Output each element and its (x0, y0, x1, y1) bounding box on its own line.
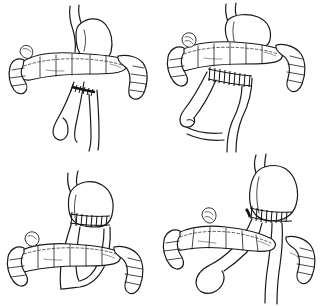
jejunal-limb-lower (186, 127, 224, 140)
descending-colon (114, 246, 143, 293)
panel-top-right-drawing (160, 0, 320, 153)
panel-bottom-left-drawing (0, 153, 160, 306)
descending-colon (276, 44, 305, 91)
cecum-appendix (202, 208, 216, 223)
panel-bottom-right (160, 153, 320, 306)
transverse-colon (19, 244, 121, 272)
jejunal-limb-right (89, 90, 99, 151)
transverse-colon (19, 53, 127, 80)
descending-colon (118, 55, 147, 99)
cecum-appendix (20, 45, 33, 58)
cecum-appendix (25, 232, 39, 246)
descending-colon (286, 236, 315, 283)
panel-bottom-left (0, 153, 160, 306)
jejunal-limb-right (227, 78, 252, 152)
figure-sheet (0, 0, 320, 306)
panel-top-left-drawing (0, 0, 160, 153)
cecum-appendix (182, 33, 196, 47)
panel-bottom-right-drawing (160, 153, 320, 306)
panel-top-right (160, 0, 320, 153)
panel-top-left (0, 0, 160, 153)
